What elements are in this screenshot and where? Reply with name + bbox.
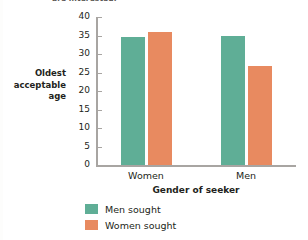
legend-swatch-icon <box>85 204 98 214</box>
bar-women-women-sought <box>148 32 172 165</box>
y-tick-mark <box>98 54 102 55</box>
x-axis-line <box>96 165 296 167</box>
y-tick-label: 15 <box>62 105 90 114</box>
y-tick-mark <box>98 17 102 18</box>
y-tick-mark <box>98 128 102 129</box>
chart-legend: Men soughtWomen sought <box>85 201 176 233</box>
legend-item-men-sought: Men sought <box>85 201 176 217</box>
bar-chart-figure: are interested. 4035302520151050 Oldesta… <box>0 0 308 240</box>
y-tick-label: 0 <box>62 160 90 169</box>
y-axis-title-line: age <box>10 91 66 103</box>
y-tick-mark <box>98 36 102 37</box>
x-category-label-men: Men <box>206 170 286 181</box>
bar-women-men-sought <box>121 37 145 165</box>
y-tick-mark <box>98 91 102 92</box>
y-tick-label: 40 <box>62 12 90 21</box>
chart-title-cropped: are interested. <box>52 0 192 3</box>
legend-label: Men sought <box>105 204 161 215</box>
page-edge <box>0 0 3 240</box>
y-tick-label: 10 <box>62 123 90 132</box>
bar-men-women-sought <box>248 66 272 165</box>
y-tick-label: 30 <box>62 49 90 58</box>
y-axis-title: Oldestacceptableage <box>10 68 66 103</box>
legend-swatch-icon <box>85 220 98 230</box>
y-tick-label: 35 <box>62 31 90 40</box>
legend-label: Women sought <box>105 220 176 231</box>
y-tick-mark <box>98 73 102 74</box>
y-tick-mark <box>98 110 102 111</box>
y-tick-mark <box>98 147 102 148</box>
x-category-label-women: Women <box>106 170 186 181</box>
y-tick-label: 5 <box>62 142 90 151</box>
bar-men-men-sought <box>221 36 245 166</box>
legend-item-women-sought: Women sought <box>85 217 176 233</box>
x-axis-title: Gender of seeker <box>96 185 296 195</box>
y-axis-title-line: Oldest <box>10 68 66 80</box>
y-tick-label: 25 <box>62 68 90 77</box>
y-axis-title-line: acceptable <box>10 80 66 92</box>
y-tick-label: 20 <box>62 86 90 95</box>
